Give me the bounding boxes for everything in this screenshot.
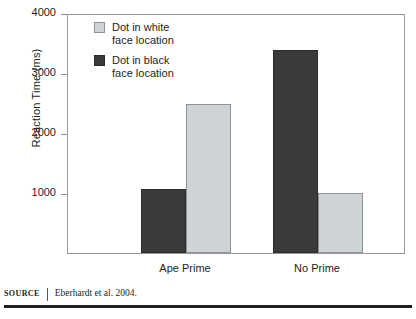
y-tick-mark (61, 194, 67, 195)
y-tick-label: 4000 (32, 6, 56, 18)
bottom-rule (4, 305, 412, 308)
legend-item-dot-in-white-face-location[interactable]: Dot in white face location (94, 21, 174, 47)
x-tick-label-no-prime: No Prime (257, 262, 377, 274)
y-tick-mark (61, 134, 67, 135)
y-tick-1000: 1000 (0, 194, 67, 195)
figure-container: Dot in white face location Dot in black … (0, 0, 416, 319)
y-tick-mark (61, 14, 67, 15)
legend-item-dot-in-black-face-location[interactable]: Dot in black face location (94, 54, 174, 80)
y-tick-label: 1000 (32, 186, 56, 198)
plot-area: Dot in white face location Dot in black … (67, 14, 405, 254)
y-tick-label: 3000 (32, 66, 56, 78)
y-tick-3000: 3000 (0, 74, 67, 75)
source-note: SOURCE Eberhardt et al. 2004. (4, 288, 412, 301)
source-divider (47, 288, 48, 301)
x-tick-label-ape-prime: Ape Prime (125, 262, 245, 274)
bar (273, 50, 318, 253)
y-tick-4000: 4000 (0, 14, 67, 15)
dark-swatch-icon (94, 55, 105, 66)
chart-legend: Dot in white face location Dot in black … (94, 21, 174, 87)
source-text: Eberhardt et al. 2004. (55, 288, 137, 298)
y-axis-title: Reaction Time (ms) (30, 18, 42, 178)
y-tick-mark (61, 74, 67, 75)
bar (318, 193, 363, 253)
source-kicker: SOURCE (4, 289, 47, 298)
y-tick-2000: 2000 (0, 134, 67, 135)
legend-label: Dot in black face location (112, 54, 174, 80)
legend-label: Dot in white face location (112, 21, 174, 47)
y-tick-label: 2000 (32, 126, 56, 138)
bar (186, 104, 231, 253)
light-swatch-icon (94, 22, 105, 33)
bar (141, 189, 186, 253)
